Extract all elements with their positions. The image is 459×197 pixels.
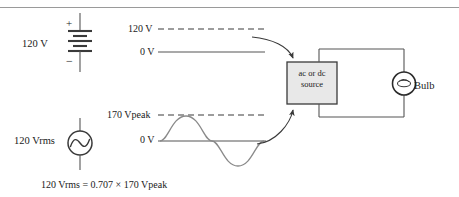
source-box-line2: source: [289, 79, 335, 90]
bulb-icon: [393, 72, 416, 95]
ac-baseline-label: 0 V: [140, 135, 155, 145]
ac-peak-label: 170 Vpeak: [107, 110, 150, 120]
battery-minus-sign: −: [66, 55, 73, 67]
ac-waveform-plot: [158, 115, 266, 166]
source-box-line1: ac or dc: [289, 68, 335, 79]
dc-waveform-plot: [158, 29, 265, 52]
source-box-text: ac or dc source: [289, 68, 335, 90]
figure-canvas: + − 120 V 120 Vrms 120 V 0 V 170 Vpeak 0…: [0, 0, 459, 197]
dc-baseline-label: 0 V: [140, 47, 155, 57]
ac-source-label: 120 Vrms: [14, 136, 55, 147]
ac-source-icon: [68, 118, 92, 170]
diagram-graphics: [0, 0, 459, 197]
dc-source-label: 120 V: [22, 39, 48, 50]
dc-level-label: 120 V: [128, 24, 153, 34]
bulb-label: Bulb: [414, 81, 434, 92]
battery-plus-sign: +: [66, 18, 72, 29]
dc-to-box-arrow: [252, 37, 293, 58]
figure-caption: 120 Vrms = 0.707 × 170 Vpeak: [41, 180, 167, 190]
